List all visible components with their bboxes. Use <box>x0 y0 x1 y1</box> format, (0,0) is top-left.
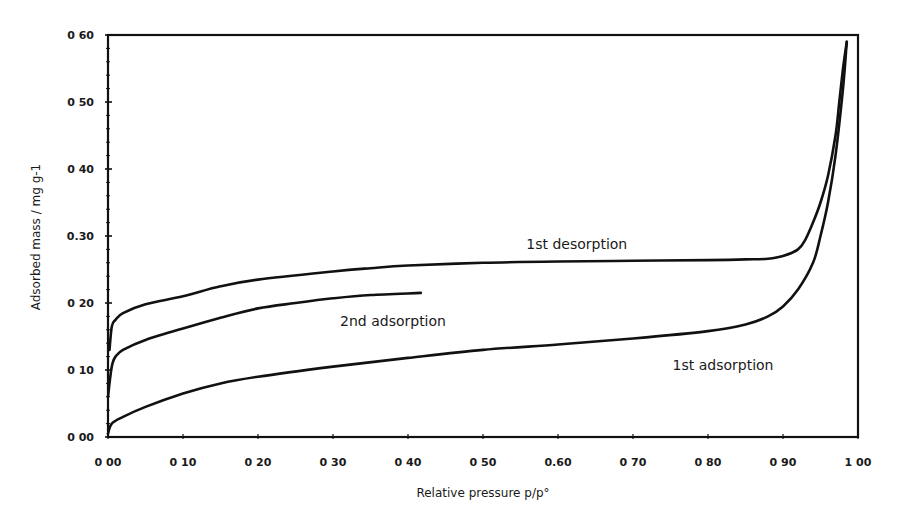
x-axis-title: Relative pressure p/p° <box>416 486 549 500</box>
x-tick-label: 0 80 <box>695 456 722 469</box>
label-1st-adsorption: 1st adsorption <box>673 357 774 373</box>
plot-border <box>108 35 858 437</box>
curve-labels: 1st adsorption1st desorption2nd adsorpti… <box>340 236 773 373</box>
x-tick-label: 0 30 <box>320 456 347 469</box>
y-tick-label: 0 00 <box>67 431 94 444</box>
label-1st-desorption: 1st desorption <box>526 236 627 252</box>
x-tick-label: 0 90 <box>770 456 797 469</box>
plot-frame <box>108 35 858 437</box>
x-tick-label: 1 00 <box>845 456 872 469</box>
x-tick-label: 0.60 <box>544 456 571 469</box>
x-tick-label: 0 70 <box>620 456 647 469</box>
y-tick-label: 0 50 <box>67 96 94 109</box>
isotherm-chart: 0 000 100 200.300 400 500 60 0 000 100 2… <box>0 0 906 521</box>
y-axis-ticks: 0 000 100 200.300 400 500 60 <box>67 29 112 444</box>
curve-1st-adsorption <box>108 42 847 434</box>
y-axis-title: Adsorbed mass / mg g-1 <box>29 164 43 311</box>
x-tick-label: 0 10 <box>170 456 197 469</box>
x-tick-label: 0 50 <box>470 456 497 469</box>
x-tick-label: 0 40 <box>395 456 422 469</box>
y-tick-label: 0.30 <box>67 230 94 243</box>
y-tick-label: 0 40 <box>67 163 94 176</box>
y-tick-label: 0 20 <box>67 297 94 310</box>
curve-2nd-adsorption <box>108 293 421 397</box>
y-tick-label: 0 10 <box>67 364 94 377</box>
label-2nd-adsorption: 2nd adsorption <box>340 313 446 329</box>
x-axis-ticks: 0 000 100 200 300 400 500.600 700 800 90… <box>95 434 872 469</box>
curve-1st-desorption <box>110 42 847 350</box>
x-tick-label: 0 00 <box>95 456 122 469</box>
x-tick-label: 0 20 <box>245 456 272 469</box>
isotherm-curves <box>108 42 847 434</box>
y-tick-label: 0 60 <box>67 29 94 42</box>
